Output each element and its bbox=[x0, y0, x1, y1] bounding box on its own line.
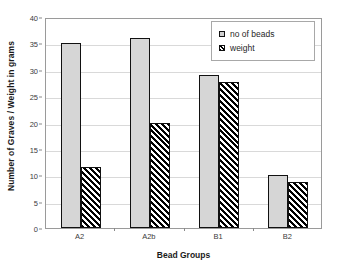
legend-item-weight: weight bbox=[219, 41, 308, 55]
y-tick-mark bbox=[39, 202, 42, 203]
y-tick-mark bbox=[39, 97, 42, 98]
y-tick-label: 5 bbox=[34, 198, 38, 207]
y-tick-label: 25 bbox=[30, 93, 38, 102]
y-tick-mark bbox=[39, 149, 42, 150]
y-axis-tick-labels: 0510152025303540 bbox=[20, 18, 42, 229]
y-axis-title: Number of Graves / Weight in grams bbox=[0, 0, 22, 232]
bar-group bbox=[130, 19, 170, 228]
bar-weight bbox=[288, 182, 308, 228]
x-tick-label: B2 bbox=[283, 232, 292, 241]
y-tick-mark bbox=[39, 123, 42, 124]
y-tick-label: 20 bbox=[30, 119, 38, 128]
legend: no of beads weight bbox=[211, 21, 315, 61]
bar-weight bbox=[219, 82, 239, 228]
plot-area: no of beads weight bbox=[45, 18, 322, 229]
x-tick-mark bbox=[253, 228, 254, 231]
x-tick-label: A2b bbox=[142, 232, 155, 241]
x-tick-label: A2 bbox=[75, 232, 84, 241]
legend-label-weight: weight bbox=[230, 43, 255, 53]
legend-swatch-no-of-beads bbox=[219, 31, 225, 37]
bar-no-of-beads bbox=[61, 43, 81, 228]
y-tick-mark bbox=[39, 18, 42, 19]
x-tick-mark bbox=[184, 228, 185, 231]
y-tick-mark bbox=[39, 176, 42, 177]
y-tick-mark bbox=[39, 229, 42, 230]
legend-item-no-of-beads: no of beads bbox=[219, 27, 308, 41]
y-tick-mark bbox=[39, 44, 42, 45]
bar-weight bbox=[81, 167, 101, 228]
bar-no-of-beads bbox=[130, 38, 150, 228]
y-tick-label: 40 bbox=[30, 14, 38, 23]
x-tick-mark bbox=[114, 228, 115, 231]
bar-no-of-beads bbox=[199, 75, 219, 228]
y-tick-label: 15 bbox=[30, 145, 38, 154]
bar-weight bbox=[150, 123, 170, 229]
y-tick-label: 10 bbox=[30, 172, 38, 181]
y-tick-mark bbox=[39, 70, 42, 71]
legend-swatch-weight bbox=[219, 45, 225, 51]
y-tick-label: 0 bbox=[34, 225, 38, 234]
y-tick-label: 35 bbox=[30, 40, 38, 49]
y-axis-title-text: Number of Graves / Weight in grams bbox=[6, 41, 16, 191]
bar-group bbox=[61, 19, 101, 228]
x-axis-tick-labels: A2A2bB1B2 bbox=[45, 232, 322, 246]
x-axis-title: Bead Groups bbox=[45, 250, 322, 260]
bar-chart-figure: Number of Graves / Weight in grams 05101… bbox=[0, 0, 340, 275]
y-tick-label: 30 bbox=[30, 66, 38, 75]
x-tick-label: B1 bbox=[214, 232, 223, 241]
bar-no-of-beads bbox=[268, 175, 288, 228]
legend-label-no-of-beads: no of beads bbox=[230, 29, 274, 39]
